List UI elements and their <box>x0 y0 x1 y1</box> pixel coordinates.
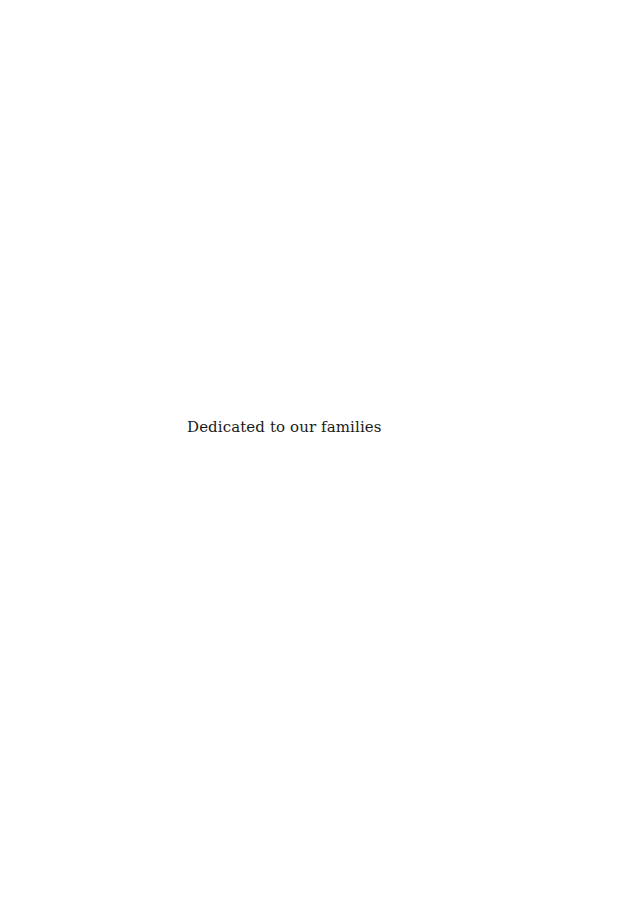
dedication-text: Dedicated to our families <box>187 418 382 436</box>
document-page: Dedicated to our families <box>0 0 620 922</box>
